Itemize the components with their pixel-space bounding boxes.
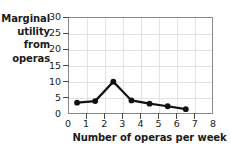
data-point-marker: [129, 98, 135, 104]
y-axis-tick-label: 20: [39, 43, 61, 54]
y-axis-tick-label: 15: [39, 60, 61, 71]
x-axis-tick-label: 0: [60, 118, 76, 129]
y-axis-tick-mark: [63, 65, 69, 66]
x-axis-tick-label: 1: [78, 118, 94, 129]
y-axis-tick-mark: [63, 97, 69, 98]
x-axis-tick-label: 8: [205, 118, 221, 129]
y-axis-tick-mark: [63, 33, 69, 34]
data-point-marker: [74, 100, 80, 106]
data-series-opera-marginal-utility: [68, 17, 213, 114]
data-point-marker: [183, 106, 189, 112]
y-axis-tick-mark: [63, 17, 69, 18]
x-axis-tick-label: 2: [96, 118, 112, 129]
y-axis-tick-mark: [63, 49, 69, 50]
x-axis-tick-label: 4: [133, 118, 149, 129]
y-axis-tick-label: 30: [39, 11, 61, 22]
data-point-marker: [110, 79, 116, 85]
x-axis-tick-label: 3: [114, 118, 130, 129]
chart-figure: Marginal utility from operas Number of o…: [0, 0, 231, 153]
y-axis-tick-label: 25: [39, 27, 61, 38]
x-axis-tick-label: 5: [151, 118, 167, 129]
y-axis-tick-label: 10: [39, 76, 61, 87]
data-point-marker: [92, 98, 98, 104]
y-axis-tick-mark: [63, 81, 69, 82]
x-axis-tick-label: 6: [169, 118, 185, 129]
x-axis-title: Number of operas per week: [68, 132, 231, 143]
data-point-marker: [147, 101, 153, 107]
y-axis-tick-label: 5: [39, 92, 61, 103]
x-axis-tick-label: 7: [187, 118, 203, 129]
data-point-marker: [165, 103, 171, 109]
y-axis-tick-label: 0: [39, 108, 61, 119]
